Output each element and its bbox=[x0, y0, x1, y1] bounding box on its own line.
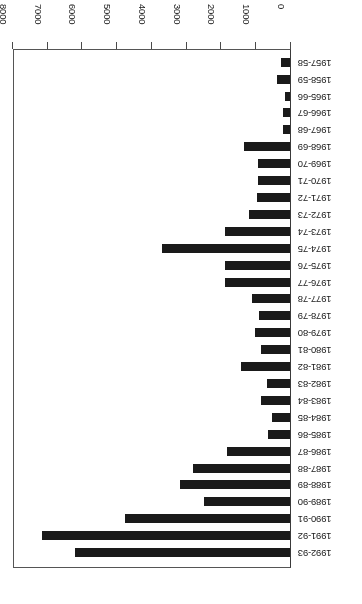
axis-tick-label: 2000 bbox=[207, 4, 218, 24]
bar-row bbox=[14, 341, 290, 358]
bar-row bbox=[14, 476, 290, 493]
bar bbox=[225, 261, 290, 270]
bar-row bbox=[14, 493, 290, 510]
bar bbox=[267, 379, 290, 388]
bar bbox=[225, 278, 290, 287]
category-label: 1971-72 bbox=[294, 190, 362, 207]
bar bbox=[244, 142, 290, 151]
category-label: 1967-68 bbox=[294, 122, 362, 139]
bar bbox=[261, 396, 290, 405]
category-label: 1981-82 bbox=[294, 359, 362, 376]
category-label: 1972-73 bbox=[294, 207, 362, 224]
bar bbox=[255, 328, 290, 337]
category-label: 1969-70 bbox=[294, 156, 362, 173]
category-label: 1976-77 bbox=[294, 275, 362, 292]
bar bbox=[272, 413, 290, 422]
bar-row bbox=[14, 71, 290, 88]
bar-row bbox=[14, 274, 290, 291]
rotated-figure-wrapper: 1992-931991-921990-911989-901988-891987-… bbox=[0, 0, 362, 604]
bar bbox=[258, 176, 290, 185]
bar bbox=[277, 75, 290, 84]
bar bbox=[283, 125, 290, 134]
category-label: 1966-67 bbox=[294, 106, 362, 123]
bar-row bbox=[14, 510, 290, 527]
bar-row bbox=[14, 358, 290, 375]
category-label: 1984-85 bbox=[294, 410, 362, 427]
bar-row bbox=[14, 307, 290, 324]
value-axis-tick-labels: 010002000300040005000600070008000 bbox=[13, 0, 291, 42]
bar-row bbox=[14, 54, 290, 71]
axis-tick-label: 1000 bbox=[241, 4, 252, 24]
bar bbox=[285, 92, 290, 101]
category-label: 1978-79 bbox=[294, 308, 362, 325]
axis-tick-label: 0 bbox=[276, 4, 287, 9]
bar bbox=[261, 345, 290, 354]
category-label: 1974-75 bbox=[294, 241, 362, 258]
bar bbox=[204, 497, 290, 506]
bar-row bbox=[14, 527, 290, 544]
category-label: 1980-81 bbox=[294, 342, 362, 359]
bar bbox=[257, 193, 290, 202]
category-label: 1975-76 bbox=[294, 258, 362, 275]
bar bbox=[258, 159, 290, 168]
bar-row bbox=[14, 257, 290, 274]
bar bbox=[125, 514, 290, 523]
bar bbox=[162, 244, 290, 253]
axis-tick-label: 8000 bbox=[0, 4, 9, 24]
category-label: 1986-87 bbox=[294, 444, 362, 461]
bar bbox=[241, 362, 290, 371]
bar bbox=[225, 227, 290, 236]
category-label: 1985-86 bbox=[294, 427, 362, 444]
axis-tick bbox=[221, 42, 222, 49]
category-label: 1958-59 bbox=[294, 72, 362, 89]
bar bbox=[268, 430, 290, 439]
category-label: 1991-92 bbox=[294, 528, 362, 545]
bar-row bbox=[14, 460, 290, 477]
axis-tick-label: 6000 bbox=[68, 4, 79, 24]
axis-tick-label: 4000 bbox=[137, 4, 148, 24]
axis-tick bbox=[12, 42, 13, 49]
bar bbox=[252, 294, 290, 303]
category-label: 1987-88 bbox=[294, 461, 362, 478]
category-label: 1988-89 bbox=[294, 477, 362, 494]
axis-tick-label: 7000 bbox=[33, 4, 44, 24]
bar bbox=[193, 464, 290, 473]
bar-row bbox=[14, 240, 290, 257]
axis-tick-label: 5000 bbox=[102, 4, 113, 24]
bar-row bbox=[14, 138, 290, 155]
bar-row bbox=[14, 392, 290, 409]
bars-layer bbox=[14, 54, 290, 561]
category-label: 1973-74 bbox=[294, 224, 362, 241]
bar bbox=[249, 210, 290, 219]
bar bbox=[180, 480, 290, 489]
axis-tick bbox=[186, 42, 187, 49]
bar-row bbox=[14, 544, 290, 561]
bar-chart-figure: 1992-931991-921990-911989-901988-891987-… bbox=[0, 0, 362, 604]
bar bbox=[42, 531, 290, 540]
bar bbox=[259, 311, 290, 320]
category-label: 1990-91 bbox=[294, 511, 362, 528]
bar bbox=[283, 108, 290, 117]
bar bbox=[75, 548, 290, 557]
bar-row bbox=[14, 88, 290, 105]
category-label: 1968-69 bbox=[294, 139, 362, 156]
plot-area bbox=[13, 49, 291, 568]
bar-row bbox=[14, 155, 290, 172]
bar-row bbox=[14, 172, 290, 189]
category-label: 1957-58 bbox=[294, 55, 362, 72]
bar-row bbox=[14, 223, 290, 240]
category-label: 1977-78 bbox=[294, 292, 362, 309]
category-label: 1970-71 bbox=[294, 173, 362, 190]
category-label: 1965-66 bbox=[294, 89, 362, 106]
bar bbox=[227, 447, 290, 456]
category-label: 1979-80 bbox=[294, 325, 362, 342]
bar-row bbox=[14, 105, 290, 122]
axis-tick bbox=[290, 42, 291, 49]
axis-tick bbox=[116, 42, 117, 49]
bar-row bbox=[14, 189, 290, 206]
axis-tick bbox=[255, 42, 256, 49]
category-label: 1982-83 bbox=[294, 376, 362, 393]
bar-row bbox=[14, 121, 290, 138]
bar-row bbox=[14, 443, 290, 460]
category-label: 1983-84 bbox=[294, 393, 362, 410]
